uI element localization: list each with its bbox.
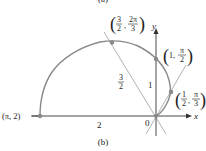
frac-num: π (180, 46, 184, 55)
frac-den: 2 (180, 55, 184, 64)
paren-close: ) (139, 14, 145, 35)
tangent-line-two-pi-thirds (104, 32, 166, 134)
point-origin (154, 114, 158, 118)
polar-diagram: (a) x y 0 (π, 2) 2 1 3 2 ( 3 2 , 2π 3 ) … (0, 0, 206, 151)
y-axis-label: y (151, 21, 156, 31)
frac-num: 2π (129, 15, 137, 24)
label-half-pi-thirds: ( 1 2 , π 3 ) (175, 90, 206, 111)
comma: , (173, 51, 175, 60)
figure-caption: (b) (98, 137, 109, 147)
frac-den: 2 (182, 99, 186, 108)
top-partial-label: (a) (98, 0, 108, 4)
length-label-1: 1 (148, 80, 153, 90)
paren-close: ) (200, 90, 206, 111)
point-three-halves-two-pi-thirds (110, 40, 114, 44)
origin-label: 0 (145, 118, 150, 128)
frac-num: 3 (117, 15, 121, 24)
cardioid-curve (40, 41, 170, 116)
point-pi-2 (38, 114, 42, 118)
frac-den: 2 (117, 24, 121, 33)
length-label-three-halves-den: 2 (119, 82, 123, 91)
label-pi-2: (π, 2) (2, 111, 21, 121)
length-label-2: 2 (97, 120, 102, 130)
frac-den: 3 (194, 99, 198, 108)
frac-num: π (194, 90, 198, 99)
frac-num: 1 (182, 90, 186, 99)
frac-den: 3 (131, 24, 135, 33)
comma: , (188, 96, 190, 105)
x-axis-label: x (193, 111, 198, 121)
x-axis-arrow-icon (186, 114, 192, 119)
paren-open: ( (175, 90, 181, 111)
paren-open: ( (110, 14, 116, 35)
label-three-halves-two-pi-thirds: ( 3 2 , 2π 3 ) (110, 14, 145, 35)
point-one-pi-halves (154, 57, 158, 61)
comma: , (124, 21, 126, 30)
paren-close: ) (187, 46, 193, 67)
point-half-pi-thirds (169, 90, 173, 94)
label-one-pi-halves: ( 1 , π 2 ) (163, 46, 193, 67)
length-label-three-halves-num: 3 (119, 73, 123, 82)
